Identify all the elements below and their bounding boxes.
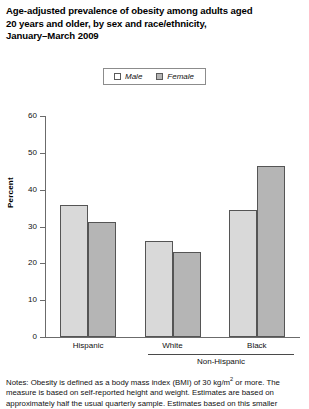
- y-tick-label-40: 40: [13, 186, 37, 194]
- legend-container: Male Female: [0, 68, 309, 85]
- bar-white-male: [145, 241, 173, 337]
- legend-label-male: Male: [125, 72, 142, 81]
- non-hispanic-label: Non-Hispanic: [148, 357, 294, 366]
- y-tick-50: [40, 153, 45, 154]
- bar-black-female: [257, 166, 285, 337]
- y-tick-40: [40, 190, 45, 191]
- legend-swatch-male-icon: [114, 73, 121, 80]
- y-tick-label-60: 60: [13, 112, 37, 120]
- y-tick-label-0: 0: [13, 333, 37, 341]
- notes-prefix: Notes:: [6, 378, 29, 387]
- chart-notes: Notes: Obesity is defined as a body mass…: [6, 374, 304, 409]
- bar-chart: Percent 0102030405060 HispanicWhiteBlack…: [0, 105, 309, 367]
- chart-legend: Male Female: [103, 68, 206, 85]
- notes-text-a: Obesity is defined as a body mass index …: [29, 378, 231, 387]
- title-line-2: 20 years and older, by sex and race/ethn…: [6, 18, 301, 31]
- bar-black-male: [229, 210, 257, 337]
- y-tick-label-10: 10: [13, 296, 37, 304]
- plot-area: [46, 116, 299, 337]
- legend-item-female: Female: [156, 72, 194, 81]
- y-tick-30: [40, 227, 45, 228]
- bar-white-female: [173, 252, 201, 337]
- legend-label-female: Female: [167, 72, 194, 81]
- y-tick-60: [40, 116, 45, 117]
- y-tick-10: [40, 300, 45, 301]
- y-tick-20: [40, 263, 45, 264]
- x-axis-line: [45, 337, 300, 338]
- y-tick-label-20: 20: [13, 259, 37, 267]
- page-title: Age-adjusted prevalence of obesity among…: [0, 0, 309, 43]
- x-group-label-hispanic: Hispanic: [48, 341, 128, 350]
- bar-hispanic-male: [60, 205, 88, 337]
- y-tick-0: [40, 337, 45, 338]
- bar-hispanic-female: [88, 222, 116, 337]
- x-group-label-black: Black: [217, 341, 297, 350]
- x-group-label-white: White: [133, 341, 213, 350]
- y-tick-label-30: 30: [13, 223, 37, 231]
- y-tick-label-50: 50: [13, 149, 37, 157]
- title-line-3: January–March 2009: [6, 30, 301, 43]
- legend-item-male: Male: [114, 72, 142, 81]
- legend-swatch-female-icon: [156, 73, 163, 80]
- non-hispanic-bracket: [148, 354, 294, 355]
- title-line-1: Age-adjusted prevalence of obesity among…: [6, 5, 301, 18]
